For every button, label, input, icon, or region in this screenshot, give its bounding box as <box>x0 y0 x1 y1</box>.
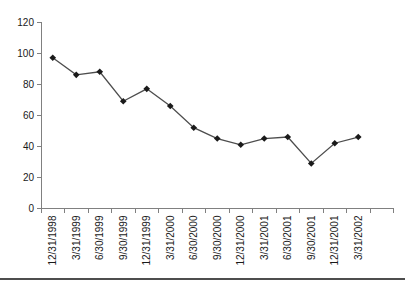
data-point-marker <box>355 134 362 141</box>
bottom-divider <box>0 278 405 280</box>
line-chart-canvas: 02040608010012012/31/19983/31/19996/30/1… <box>0 0 405 276</box>
data-point-marker <box>237 141 244 148</box>
line-chart-figure: 02040608010012012/31/19983/31/19996/30/1… <box>0 0 405 280</box>
x-tick-label: 3/31/1999 <box>71 215 82 260</box>
x-tick-label: 9/30/1999 <box>118 215 129 260</box>
x-tick-label: 9/30/2000 <box>212 215 223 260</box>
data-point-marker <box>214 135 221 142</box>
x-tick-label: 6/30/2000 <box>188 215 199 260</box>
y-tick-label: 20 <box>23 172 35 183</box>
x-tick-label: 3/31/2001 <box>259 215 270 260</box>
chart-page: 02040608010012012/31/19983/31/19996/30/1… <box>0 0 405 287</box>
x-tick-label: 12/31/2000 <box>235 215 246 265</box>
y-tick-label: 60 <box>23 110 35 121</box>
x-tick-label: 12/31/1998 <box>47 215 58 265</box>
x-tick-label: 12/31/2001 <box>329 215 340 265</box>
y-tick-label: 120 <box>17 17 34 28</box>
data-point-marker <box>261 135 268 142</box>
x-tick-label: 6/30/1999 <box>94 215 105 260</box>
x-tick-label: 3/31/2002 <box>353 215 364 260</box>
x-tick-label: 12/31/1999 <box>141 215 152 265</box>
y-tick-label: 80 <box>23 79 35 90</box>
x-tick-label: 3/31/2000 <box>165 215 176 260</box>
y-tick-label: 0 <box>28 203 34 214</box>
y-tick-label: 100 <box>17 48 34 59</box>
y-tick-label: 40 <box>23 141 35 152</box>
x-tick-label: 9/30/2001 <box>306 215 317 260</box>
x-tick-label: 6/30/2001 <box>282 215 293 260</box>
